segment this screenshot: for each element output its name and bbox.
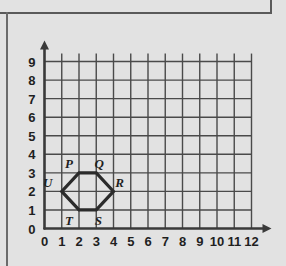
x-tick-label-8: 8: [179, 234, 186, 249]
x-tick-label-10: 10: [210, 234, 224, 249]
vertex-label-P: P: [65, 156, 74, 171]
y-axis-arrowhead: [40, 41, 49, 50]
y-tick-label-5: 5: [28, 129, 35, 144]
y-tick-label-7: 7: [28, 92, 35, 107]
coordinate-grid-plot: 0123456789101112 0123456789 PQRSTU: [0, 0, 286, 266]
x-tick-label-6: 6: [144, 234, 151, 249]
x-tick-label-5: 5: [127, 234, 134, 249]
vertex-label-Q: Q: [95, 156, 105, 171]
x-tick-label-12: 12: [244, 234, 258, 249]
vertex-label-U: U: [43, 175, 53, 190]
x-tick-label-11: 11: [227, 234, 241, 249]
x-tick-label-9: 9: [196, 234, 203, 249]
figure-container: 0123456789101112 0123456789 PQRSTU: [0, 0, 286, 266]
y-tick-label-1: 1: [28, 203, 35, 218]
x-tick-label-0: 0: [41, 234, 48, 249]
y-tick-label-2: 2: [28, 184, 35, 199]
y-tick-label-8: 8: [28, 73, 35, 88]
y-tick-label-6: 6: [28, 110, 35, 125]
x-tick-label-4: 4: [110, 234, 118, 249]
x-axis-arrowhead: [263, 224, 272, 233]
x-tick-label-2: 2: [75, 234, 82, 249]
y-tick-label-0: 0: [28, 222, 35, 237]
y-tick-label-9: 9: [28, 55, 35, 70]
vertex-label-S: S: [95, 213, 102, 228]
y-axis-tick-labels: 0123456789: [28, 55, 36, 237]
vertex-label-T: T: [65, 213, 74, 228]
vertex-label-R: R: [114, 175, 124, 190]
x-tick-label-7: 7: [162, 234, 169, 249]
x-tick-label-1: 1: [58, 234, 65, 249]
x-tick-label-3: 3: [93, 234, 100, 249]
x-axis-tick-labels: 0123456789101112: [41, 234, 259, 249]
y-tick-label-4: 4: [28, 147, 36, 162]
y-tick-label-3: 3: [28, 166, 35, 181]
